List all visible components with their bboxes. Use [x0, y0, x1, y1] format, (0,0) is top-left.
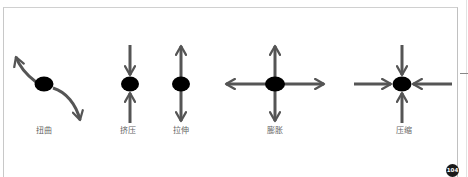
- twist-arrow-up-left: [16, 57, 36, 82]
- squeeze-node: [121, 77, 139, 92]
- expand-node: [265, 77, 285, 92]
- page-number-badge: 104: [446, 164, 459, 177]
- compress-node: [393, 77, 412, 92]
- twist-node: [35, 77, 54, 92]
- label-squeeze: 挤压: [120, 124, 137, 135]
- force-types-diagram: [0, 0, 468, 177]
- stretch-figure: [172, 46, 190, 121]
- twist-figure: [16, 57, 80, 120]
- twist-arrow-down-right: [53, 88, 80, 120]
- compress-figure: [354, 45, 452, 123]
- label-compress: 压缩: [396, 124, 413, 135]
- label-twist: 扭曲: [36, 124, 53, 135]
- stretch-node: [172, 77, 190, 92]
- label-stretch: 拉伸: [173, 124, 190, 135]
- label-expand: 膨胀: [267, 124, 284, 135]
- expand-figure: [226, 46, 324, 121]
- squeeze-figure: [121, 45, 139, 123]
